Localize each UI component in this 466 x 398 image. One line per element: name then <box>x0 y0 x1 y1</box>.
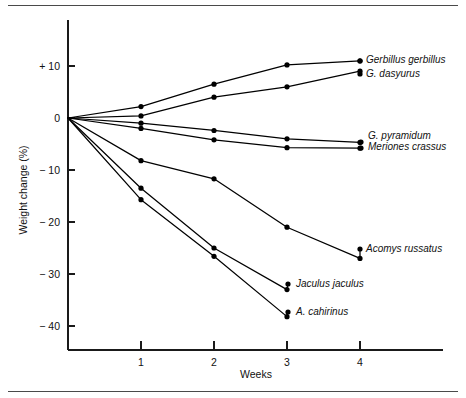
data-point-marker <box>211 137 216 142</box>
data-point-marker <box>284 84 289 89</box>
data-point-marker <box>138 104 143 109</box>
figure-container: + 100− 10− 20− 30− 40 1234 Gerbillus ger… <box>0 0 466 398</box>
data-point-marker <box>211 95 216 100</box>
y-axis-ticks: + 100− 10− 20− 30− 40 <box>39 60 75 332</box>
data-point-marker <box>284 225 289 230</box>
data-point-marker <box>138 186 143 191</box>
series-label-anchor-marker <box>357 246 362 251</box>
data-point-marker <box>211 254 216 259</box>
data-point-marker <box>211 245 216 250</box>
data-point-marker <box>138 121 143 126</box>
data-point-marker <box>138 113 143 118</box>
data-point-marker <box>284 136 289 141</box>
data-point-marker <box>138 126 143 131</box>
y-tick-label: − 20 <box>39 216 60 228</box>
data-point-marker <box>138 197 143 202</box>
series-label-anchor-marker <box>285 309 290 314</box>
weight-change-line-chart: + 100− 10− 20− 30− 40 1234 Gerbillus ger… <box>0 0 466 398</box>
y-tick-label: 0 <box>54 112 60 124</box>
series-label: Acomys russatus <box>365 243 442 254</box>
data-point-marker <box>211 176 216 181</box>
y-tick-label: − 40 <box>39 320 60 332</box>
series-label: Gerbillus gerbillus <box>366 54 445 65</box>
series-label-anchor-marker <box>358 145 363 150</box>
x-tick-label: 1 <box>138 356 144 368</box>
series-line <box>68 61 360 118</box>
series-label-anchor-marker <box>357 58 362 63</box>
series-label-anchor-marker <box>358 139 363 144</box>
data-point-marker <box>284 145 289 150</box>
series-labels-group: Gerbillus gerbillusG. dasyurusG. pyramid… <box>295 54 446 317</box>
y-tick-label: + 10 <box>39 60 60 72</box>
series-label: A. cahirinus <box>295 306 348 317</box>
x-tick-label: 3 <box>284 356 290 368</box>
y-tick-label: − 30 <box>39 268 60 280</box>
x-axis-ticks: 1234 <box>138 341 363 368</box>
x-axis-title: Weeks <box>240 368 272 380</box>
y-tick-label: − 10 <box>39 164 60 176</box>
series-label-anchor-marker <box>285 281 290 286</box>
series-label: G. pyramidum <box>368 130 431 141</box>
series-label: Meriones crassus <box>368 141 446 152</box>
x-tick-label: 2 <box>211 356 217 368</box>
data-point-marker <box>211 128 216 133</box>
data-point-marker <box>138 158 143 163</box>
y-axis-title: Weight change (%) <box>17 145 29 234</box>
series-label: G. dasyurus <box>366 68 420 79</box>
data-point-marker <box>284 62 289 67</box>
series-label-anchor-marker <box>357 71 362 76</box>
series-label: Jaculus jaculus <box>295 278 364 289</box>
data-point-marker <box>211 82 216 87</box>
x-tick-label: 4 <box>357 356 363 368</box>
